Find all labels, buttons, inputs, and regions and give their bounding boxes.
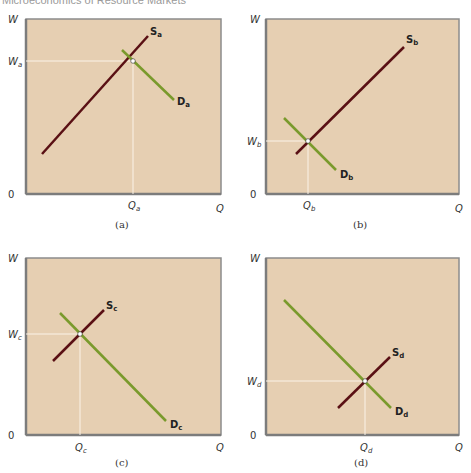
x-axis-label: Q: [216, 203, 224, 214]
equilibrium-point: [306, 139, 311, 144]
panel-caption: (c): [115, 457, 129, 468]
eq-qty-label: Qb: [303, 200, 316, 213]
y-axis-label: W: [250, 253, 261, 264]
equilibrium-point: [78, 332, 83, 337]
origin-label: 0: [250, 430, 256, 441]
plot-area: [26, 19, 221, 194]
panel-d: W 0 Q Wd Qd Sd Dd (d): [247, 253, 463, 468]
plot-area: [266, 258, 459, 435]
figure: W 0 Q Wa Qa Sa Da (a) W 0 Q Wb Qb Sb Db …: [0, 0, 471, 473]
plot-area: [266, 19, 459, 194]
eq-wage-label: Wd: [247, 376, 262, 389]
panel-caption: (b): [353, 219, 367, 230]
origin-label: 0: [250, 189, 256, 200]
origin-label: 0: [8, 189, 14, 200]
x-axis-label: Q: [455, 203, 463, 214]
y-axis-label: W: [8, 14, 19, 25]
eq-qty-label: Qa: [128, 200, 140, 213]
x-axis-label: Q: [216, 442, 224, 453]
origin-label: 0: [8, 430, 14, 441]
panel-b: W 0 Q Wb Qb Sb Db (b): [247, 14, 463, 230]
eq-wage-label: Wa: [8, 56, 22, 69]
panel-c: W 0 Q Wc Qc Sc Dc (c): [8, 253, 224, 468]
eq-wage-label: Wb: [247, 136, 262, 149]
eq-qty-label: Qc: [75, 442, 87, 455]
x-axis-label: Q: [455, 442, 463, 453]
equilibrium-point: [131, 59, 136, 64]
plot-area: [26, 258, 221, 435]
y-axis-label: W: [250, 14, 261, 25]
equilibrium-point: [363, 379, 368, 384]
panel-a: W 0 Q Wa Qa Sa Da (a): [8, 14, 224, 230]
y-axis-label: W: [8, 253, 19, 264]
panel-caption: (d): [354, 457, 368, 468]
panel-caption: (a): [115, 219, 129, 230]
eq-qty-label: Qd: [360, 442, 373, 455]
eq-wage-label: Wc: [8, 329, 22, 342]
